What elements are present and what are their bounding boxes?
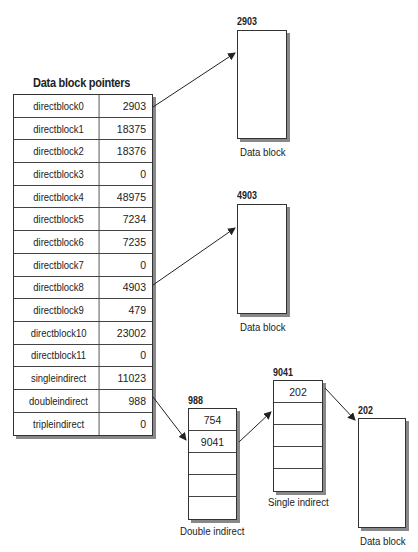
arrow-directblock0-to-block xyxy=(153,53,235,107)
arrow-202-to-block xyxy=(325,388,355,420)
arrow-doubleindirect-to-block xyxy=(153,397,186,440)
arrow-9041-to-single xyxy=(239,412,271,442)
arrow-directblock8-to-block xyxy=(153,228,235,285)
pointer-arrows xyxy=(0,0,418,552)
